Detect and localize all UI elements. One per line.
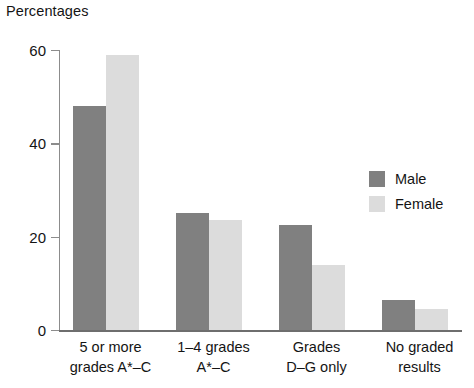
legend-swatch-icon: [369, 171, 385, 187]
bar-male: [73, 106, 106, 330]
x-axis-label: 5 or moregrades A*–C: [59, 337, 162, 377]
y-axis-tick-mark: [51, 330, 59, 331]
y-axis-tick-labels: 0204060: [0, 50, 46, 331]
y-axis-tick-label: 0: [38, 322, 46, 339]
bar-male: [382, 300, 415, 330]
bar-group: [59, 50, 162, 330]
legend-swatch-icon: [369, 196, 385, 212]
x-axis-line: [59, 330, 462, 332]
legend-label: Female: [395, 196, 443, 212]
y-axis-tick-mark: [51, 50, 59, 51]
legend-label: Male: [395, 171, 426, 187]
bar-female: [106, 55, 139, 330]
x-axis-label: No gradedresults: [368, 337, 471, 377]
chart-legend: MaleFemale: [369, 166, 469, 216]
chart-title: Percentages: [6, 3, 89, 19]
bar-male: [279, 225, 312, 330]
y-axis-tick-mark: [51, 143, 59, 144]
bar-group: [265, 50, 368, 330]
y-axis-tick-label: 60: [29, 42, 46, 59]
y-axis-tick-label: 20: [29, 228, 46, 245]
x-axis-category-labels: 5 or moregrades A*–C1–4 gradesA*–CGrades…: [59, 337, 462, 387]
bar-chart: Percentages 0204060 5 or moregrades A*–C…: [0, 0, 474, 388]
y-axis-tick-label: 40: [29, 135, 46, 152]
bar-female: [312, 265, 345, 330]
bar-male: [176, 213, 209, 330]
bar-female: [209, 220, 242, 330]
x-axis-label: 1–4 gradesA*–C: [162, 337, 265, 377]
bar-female: [415, 309, 448, 330]
legend-item-female: Female: [369, 191, 469, 216]
y-axis-tick-mark: [51, 237, 59, 238]
legend-item-male: Male: [369, 166, 469, 191]
x-axis-label: GradesD–G only: [265, 337, 368, 377]
bar-group: [162, 50, 265, 330]
